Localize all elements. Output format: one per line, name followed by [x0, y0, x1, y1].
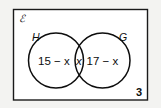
universal-set-symbol: ℰ — [19, 13, 26, 24]
venn-diagram-figure: ℰ H G 15 − x x 17 − x 3 — [0, 0, 161, 108]
set-label-g: G — [119, 31, 127, 43]
page-number: 3 — [136, 86, 142, 98]
region-label-g-only: 17 − x — [87, 55, 119, 67]
venn-diagram-canvas: ℰ H G 15 − x x 17 − x 3 — [0, 0, 161, 108]
region-label-h-only: 15 − x — [38, 55, 70, 67]
set-label-h: H — [32, 31, 40, 43]
